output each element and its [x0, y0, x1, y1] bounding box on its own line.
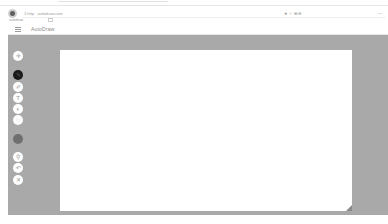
undo-glyph: ↶	[16, 165, 21, 171]
address-bar-actions[interactable]: ★ ☆ ⊞ ⊟	[284, 9, 301, 18]
workspace: ✛ ✎ ✐ T ◐ ◌ ⚲ ↶ ✕	[8, 35, 388, 215]
move-icon[interactable]: ✛	[13, 51, 23, 61]
drawing-canvas[interactable]	[60, 50, 352, 211]
shape-glyph: ◌	[16, 117, 20, 123]
undo-icon[interactable]: ↶	[13, 163, 23, 173]
address-bar[interactable]: 1 http · autodraw.com ★ ☆ ⊞ ⊟ ⋯	[22, 9, 386, 18]
zoom-glyph: ⚲	[16, 154, 20, 160]
tab-strip	[0, 0, 388, 6]
app-header: AutoDraw	[8, 24, 388, 35]
delete-icon[interactable]: ✕	[13, 175, 23, 185]
bookmark-item[interactable]: autodraw	[9, 18, 23, 22]
zoom-icon[interactable]: ⚲	[13, 152, 23, 162]
app-title: AutoDraw	[31, 25, 55, 34]
pencil-icon[interactable]: ✐	[13, 82, 23, 92]
color-swatch-icon[interactable]	[13, 134, 23, 144]
move-glyph: ✛	[16, 53, 21, 59]
browser-logo-icon[interactable]	[8, 9, 17, 18]
bookmark-folder-icon[interactable]	[48, 18, 53, 22]
text-icon[interactable]: T	[13, 93, 23, 103]
page-bottom	[0, 215, 388, 224]
address-url[interactable]: 1 http · autodraw.com	[24, 9, 62, 18]
hamburger-icon[interactable]	[15, 27, 21, 32]
browser-menu-icon[interactable]: ⋯	[378, 9, 382, 18]
shape-icon[interactable]: ◌	[13, 115, 23, 125]
fill-glyph: ◐	[16, 106, 20, 112]
fill-icon[interactable]: ◐	[13, 104, 23, 114]
resize-handle-icon[interactable]	[346, 205, 352, 211]
autodraw-icon[interactable]: ✎	[13, 70, 23, 80]
autodraw-glyph: ✎	[16, 72, 21, 78]
browser-tab[interactable]	[58, 1, 168, 7]
pencil-glyph: ✐	[16, 84, 21, 90]
delete-glyph: ✕	[16, 177, 21, 183]
text-glyph: T	[16, 95, 20, 101]
